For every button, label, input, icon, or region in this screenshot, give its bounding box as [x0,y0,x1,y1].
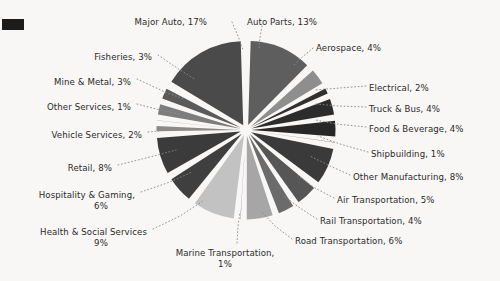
pie-label-mine_metal: Mine & Metal, 3% [0,77,131,88]
pie-label-auto_parts: Auto Parts, 13% [247,17,317,28]
pie-label-electrical: Electrical, 2% [369,83,429,94]
pie-label-food_bev: Food & Beverage, 4% [369,124,464,135]
pie-label-retail: Retail, 8% [0,163,112,174]
pie-chart: Major Auto, 17%Auto Parts, 13%Aerospace,… [0,0,500,281]
pie-slices [156,41,335,219]
pie-label-health2: 9% [11,238,191,249]
pie-label-other_services: Other Services, 1% [0,102,131,113]
pie-label-vehicle_svc: Vehicle Services, 2% [0,130,142,141]
pie-label-air_trans: Air Transportation, 5% [337,195,435,206]
pie-label-hospitality: Hospitality & Gaming, [0,190,135,201]
pie-label-shipbuilding: Shipbuilding, 1% [371,149,445,160]
pie-label-health: Health & Social Services [0,227,147,238]
chart-page: Major Auto, 17%Auto Parts, 13%Aerospace,… [0,0,500,281]
pie-label-fisheries: Fisheries, 3% [0,52,152,63]
pie-label-marine: Marine Transportation, [135,248,315,259]
pie-label-road_trans: Road Transportation, 6% [295,236,402,247]
pie-label-aerospace: Aerospace, 4% [316,43,381,54]
pie-label-major_auto: Major Auto, 17% [0,17,207,28]
leader-line [237,212,240,243]
pie-label-rail_trans: Rail Transportation, 4% [320,216,422,227]
pie-label-other_mfg: Other Manufacturing, 8% [353,172,463,183]
pie-slice[interactable] [156,126,240,131]
pie-label-truck_bus: Truck & Bus, 4% [369,104,440,115]
pie-label-hospitality2: 6% [11,201,191,212]
pie-label-marine2: 1% [135,259,315,270]
pie-slice[interactable] [252,121,336,137]
leader-line [314,86,366,90]
